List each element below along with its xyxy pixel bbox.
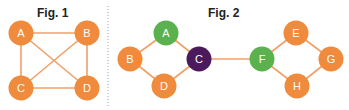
fig1-node-B: B (75, 21, 100, 46)
svg-text:B: B (83, 27, 90, 39)
svg-text:D: D (83, 82, 91, 94)
fig2-node-A: A (154, 21, 179, 46)
fig2-node-E: E (284, 21, 309, 46)
fig2-node-H: H (285, 74, 310, 99)
svg-text:G: G (327, 53, 336, 65)
svg-text:B: B (126, 53, 133, 65)
svg-text:F: F (259, 53, 266, 65)
edges (21, 33, 331, 88)
svg-text:C: C (17, 82, 25, 94)
fig1-node-A: A (9, 21, 34, 46)
svg-text:D: D (160, 80, 168, 92)
fig2-title: Fig. 2 (208, 6, 240, 20)
svg-text:H: H (293, 80, 301, 92)
svg-text:C: C (195, 53, 203, 65)
fig1-node-C: C (9, 76, 34, 101)
fig2-node-C: C (187, 47, 212, 72)
fig1-title: Fig. 1 (37, 6, 69, 20)
fig1-node-D: D (75, 76, 100, 101)
svg-text:A: A (17, 27, 25, 39)
svg-text:E: E (292, 27, 299, 39)
diagram-canvas: Fig. 1 Fig. 2 ABCDABCDFEGH (0, 0, 349, 110)
fig2-node-D: D (152, 74, 177, 99)
fig2-node-B: B (118, 47, 143, 72)
fig2-node-G: G (319, 47, 344, 72)
svg-text:A: A (162, 27, 170, 39)
fig2-node-F: F (250, 47, 275, 72)
